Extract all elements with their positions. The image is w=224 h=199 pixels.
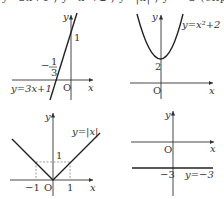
graph-absolute: y x O 1 −1 1 y=|x| xyxy=(10,111,100,196)
y-axis-label: y xyxy=(44,111,51,122)
x-axis-label: x xyxy=(88,82,94,93)
x-intercept-numerator: 1 xyxy=(51,56,57,67)
graph-parabola: y x O 2 y=x²+2 xyxy=(130,11,220,99)
vertex-y-label: 2 xyxy=(155,61,161,72)
y-axis-label: y xyxy=(151,11,158,22)
y-intercept-label: 1 xyxy=(74,32,80,43)
origin-label: O xyxy=(164,144,172,155)
equation-label: y=x²+2 xyxy=(181,19,220,30)
y-neg-three-label: −3 xyxy=(160,169,175,180)
y-axis-label: y xyxy=(62,11,69,22)
equation-label: y=−3 xyxy=(184,169,214,180)
graph-constant: y x O −3 y=−3 xyxy=(131,109,216,196)
x-axis-label: x xyxy=(210,143,216,154)
y-one-label: 1 xyxy=(56,150,62,161)
origin-label: O xyxy=(63,82,71,93)
parabola-curve xyxy=(137,14,183,59)
y-axis-label: y xyxy=(164,109,171,120)
x-intercept-sign: − xyxy=(41,60,49,71)
origin-label: O xyxy=(44,182,52,193)
function-graphs-figure: y x O 1 − 1 3 y=3x+1 y x O 2 y=x²+2 y x … xyxy=(0,0,224,199)
x-intercept-denominator: 3 xyxy=(51,67,57,78)
x-neg-one-label: −1 xyxy=(25,182,40,193)
origin-label: O xyxy=(153,85,161,96)
x-one-label: 1 xyxy=(67,182,73,193)
x-axis-label: x xyxy=(209,85,215,96)
equation-label: y=|x| xyxy=(71,126,98,138)
graph-linear: y x O 1 − 1 3 y=3x+1 xyxy=(10,11,94,100)
equation-label: y=3x+1 xyxy=(10,83,52,94)
x-axis-label: x xyxy=(90,182,96,193)
